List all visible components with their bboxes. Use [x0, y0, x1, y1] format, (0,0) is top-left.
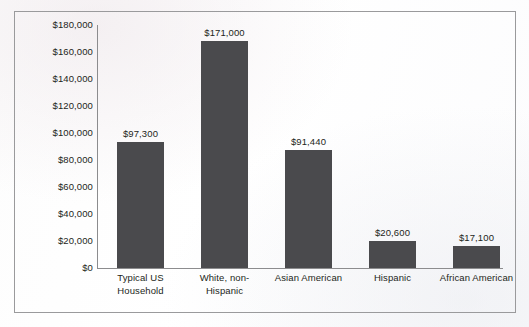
x-category-label-line: Asian American: [275, 272, 342, 283]
bar-asian-american[interactable]: [285, 150, 332, 268]
y-tick-label: $80,000: [15, 155, 93, 165]
x-category-label-line: Typical US: [117, 272, 163, 283]
bar-group-typical-us-household[interactable]: $97,300 Typical US Household: [117, 12, 164, 314]
x-category-label: African American: [423, 272, 529, 285]
bar-group-asian-american[interactable]: $91,440 Asian American: [285, 12, 332, 314]
bar-white-non-hispanic[interactable]: [201, 41, 248, 268]
bar-chart: $180,000 $160,000 $140,000 $120,000 $100…: [15, 12, 517, 314]
y-tick-label: $120,000: [15, 101, 93, 111]
y-tick-label: $140,000: [15, 74, 93, 84]
bar-value-label: $171,000: [169, 27, 280, 38]
x-category-label-line: Household: [117, 285, 163, 296]
bar-group-hispanic[interactable]: $20,600 Hispanic: [369, 12, 416, 314]
y-tick-label: $160,000: [15, 47, 93, 57]
y-tick-label: $100,000: [15, 128, 93, 138]
y-tick-label: $60,000: [15, 182, 93, 192]
y-axis-tick-labels: $180,000 $160,000 $140,000 $120,000 $100…: [15, 12, 93, 314]
y-tick-label: $40,000: [15, 209, 93, 219]
bar-hispanic[interactable]: [369, 241, 416, 268]
bars-layer: $97,300 Typical US Household $171,000 Wh…: [97, 12, 503, 314]
bar-typical-us-household[interactable]: [117, 142, 164, 268]
bar-value-label: $17,100: [421, 232, 529, 243]
x-category-label-line: White, non-: [200, 272, 250, 283]
y-tick-label: $0: [15, 263, 93, 273]
y-tick-label: $20,000: [15, 236, 93, 246]
x-category-label-line: Hispanic: [206, 285, 243, 296]
bar-value-label: $97,300: [85, 128, 196, 139]
y-tick-label: $180,000: [15, 20, 93, 30]
x-category-label-line: African American: [440, 272, 513, 283]
bar-group-white-non-hispanic[interactable]: $171,000 White, non- Hispanic: [201, 12, 248, 314]
bar-value-label: $91,440: [253, 136, 364, 147]
bar-african-american[interactable]: [453, 246, 500, 268]
chart-frame: $180,000 $160,000 $140,000 $120,000 $100…: [14, 11, 516, 313]
bar-group-african-american[interactable]: $17,100 African American: [453, 12, 500, 314]
x-category-label-line: Hispanic: [374, 272, 411, 283]
